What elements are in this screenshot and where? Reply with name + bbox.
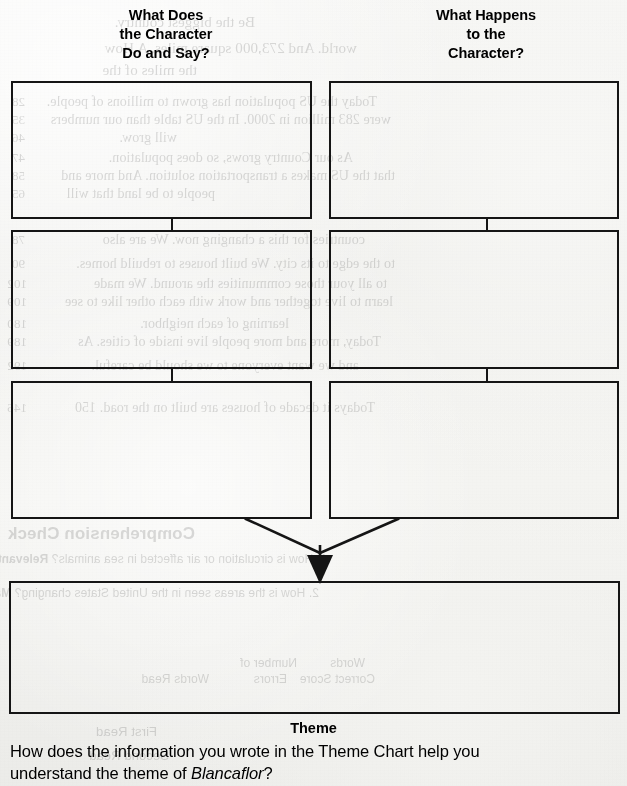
- answer-box-happens-to-3[interactable]: [329, 381, 619, 519]
- answer-box-do-and-say-3[interactable]: [11, 381, 312, 519]
- heading-line: the Character: [86, 25, 246, 44]
- heading-line: to the: [406, 25, 566, 44]
- heading-line: What Happens: [406, 6, 566, 25]
- theme-answer-box[interactable]: [9, 581, 620, 714]
- column-heading-happens-to: What Happens to the Character?: [406, 6, 566, 63]
- theme-label: Theme: [0, 720, 627, 736]
- worksheet-content: What Does the Character Do and Say? What…: [0, 0, 627, 786]
- answer-box-do-and-say-1[interactable]: [11, 81, 312, 219]
- converging-arrow-icon: [230, 515, 410, 587]
- heading-line: Character?: [406, 44, 566, 63]
- connector-line-right-2: [486, 367, 488, 382]
- connector-line-left-2: [171, 367, 173, 382]
- prompt-text-after: ?: [263, 764, 272, 782]
- heading-line: Do and Say?: [86, 44, 246, 63]
- connector-line-right-1: [486, 217, 488, 232]
- answer-box-do-and-say-2[interactable]: [11, 230, 312, 369]
- story-title: Blancaflor: [191, 764, 263, 782]
- column-heading-do-and-say: What Does the Character Do and Say?: [86, 6, 246, 63]
- connector-line-left-1: [171, 217, 173, 232]
- heading-line: What Does: [86, 6, 246, 25]
- answer-box-happens-to-1[interactable]: [329, 81, 619, 219]
- answer-box-happens-to-2[interactable]: [329, 230, 619, 369]
- reflection-prompt: How does the information you wrote in th…: [10, 741, 530, 784]
